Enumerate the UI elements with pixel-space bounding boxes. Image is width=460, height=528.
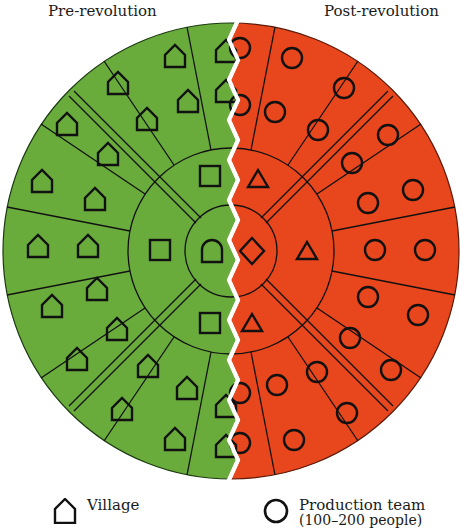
legend-village: Village	[53, 498, 139, 524]
legend-village-label: Village	[87, 498, 139, 513]
legend-production-team-label: Production team	[299, 498, 425, 513]
house-icon	[53, 498, 77, 524]
legend-production-team: Production team (100–200 people)	[263, 498, 425, 528]
circle-icon	[263, 498, 289, 524]
legend-production-team-sublabel: (100–200 people)	[299, 513, 425, 528]
